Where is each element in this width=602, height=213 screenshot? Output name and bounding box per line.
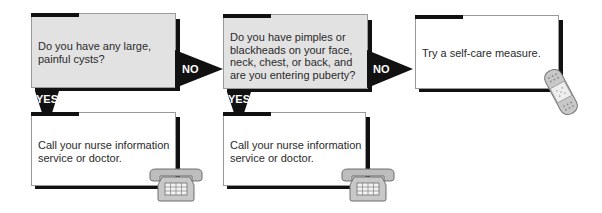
top-accent-bar <box>223 112 271 116</box>
yes-label-2: YES <box>228 93 250 105</box>
telephone-icon <box>148 167 204 203</box>
no-label-2: NO <box>373 63 390 75</box>
outcome-text: Try a self-care measure. <box>422 47 552 60</box>
yes-label-1: YES <box>36 93 58 105</box>
no-label-1: NO <box>182 63 199 75</box>
telephone-icon <box>340 167 396 203</box>
outcome-text: Call your nurse information service or d… <box>38 139 173 164</box>
bandage-icon <box>543 66 579 118</box>
top-accent-bar <box>31 13 79 17</box>
top-accent-bar <box>31 112 79 116</box>
top-accent-bar <box>223 14 271 18</box>
question-text: Do you have any large, painful cysts? <box>38 40 168 65</box>
top-accent-bar <box>415 15 463 19</box>
outcome-text: Call your nurse information service or d… <box>230 139 362 164</box>
question-text: Do you have pimples or blackheads on you… <box>230 31 364 81</box>
